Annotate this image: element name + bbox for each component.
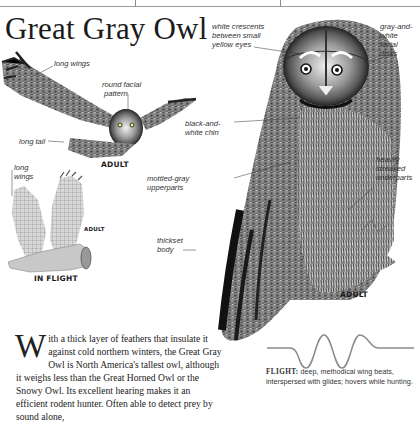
- callout-line: upperparts: [147, 183, 189, 192]
- callout-line: thickset: [157, 236, 183, 245]
- callout-line: white crescents: [212, 22, 264, 31]
- callout-line: disks: [380, 49, 413, 58]
- callout-line: streaked: [376, 164, 412, 173]
- flight-label: FLIGHT:: [266, 368, 299, 376]
- callout-gray-white-facial-disks: gray-and- white facial disks: [380, 22, 413, 58]
- callout-line: yellow eyes: [212, 40, 264, 49]
- caption-adult-flying: ADULT: [101, 160, 129, 169]
- callout-line: round facial: [102, 80, 141, 89]
- callout-line: mottled-gray: [147, 174, 189, 183]
- callout-heavily-streaked-underparts: heavily streaked underparts: [376, 155, 412, 182]
- callout-black-white-chin: black-and- white chin: [185, 119, 220, 137]
- callout-line: wings: [14, 172, 33, 181]
- caption-in-flight: IN FLIGHT: [34, 274, 78, 283]
- callout-line: long: [14, 163, 33, 172]
- callout-line: white: [380, 31, 413, 40]
- callout-line: facial: [380, 40, 413, 49]
- callout-line: body: [157, 245, 183, 254]
- drop-cap: W: [15, 333, 46, 359]
- callout-line: white chin: [185, 128, 220, 137]
- flight-pattern-wave-icon: [267, 335, 414, 368]
- caption-adult-small: ADULT: [84, 226, 105, 232]
- callout-line: pattern: [102, 89, 141, 98]
- callout-line: underparts: [376, 173, 412, 182]
- species-description: With a thick layer of feathers that insu…: [16, 332, 222, 423]
- perched-owl-illustration: [221, 20, 401, 341]
- callout-long-tail: long tail: [19, 137, 45, 146]
- callout-line: black-and-: [185, 119, 220, 128]
- callout-line: between small: [212, 31, 264, 40]
- callout-long-wings: long wings: [54, 59, 90, 68]
- callout-long-wings-inflight: long wings: [14, 163, 33, 181]
- caption-adult-perched: ADULT: [340, 290, 368, 299]
- flight-description: FLIGHT: deep, methodical wing beats, int…: [266, 367, 420, 387]
- callout-thickset-body: thickset body: [157, 236, 183, 254]
- callout-round-facial-pattern: round facial pattern: [102, 80, 141, 98]
- callout-mottled-gray-upperparts: mottled-gray upperparts: [147, 174, 189, 192]
- description-text: ith a thick layer of feathers that insul…: [16, 333, 222, 422]
- callout-line: heavily: [376, 155, 412, 164]
- callout-line: gray-and-: [380, 22, 413, 31]
- in-flight-owl-illustration: [8, 170, 91, 272]
- callout-white-crescents: white crescents between small yellow eye…: [212, 22, 264, 49]
